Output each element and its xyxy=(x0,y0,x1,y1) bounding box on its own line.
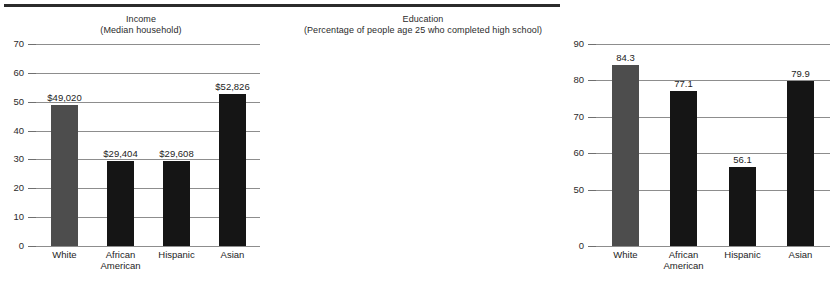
y-axis-label: 70 xyxy=(0,39,24,49)
plot-area-income: 010203040506070$49,020White$29,404Africa… xyxy=(22,44,260,246)
bar[interactable] xyxy=(729,167,756,246)
y-axis-label: 50 xyxy=(0,97,24,107)
y-axis-label: 60 xyxy=(0,68,24,78)
chart-title-line2: (Percentage of people age 25 who complet… xyxy=(282,25,564,36)
y-axis-tick xyxy=(28,44,36,45)
bar-value-label: 84.3 xyxy=(594,52,657,63)
x-axis-label-line: American xyxy=(87,260,154,271)
gridline xyxy=(36,44,260,45)
chart-panel-income: Income (Median household) 01020304050607… xyxy=(0,0,282,288)
chart-title-line1: Income xyxy=(0,14,282,25)
y-axis-label: 0 xyxy=(0,241,24,251)
x-axis-label-line: African xyxy=(669,249,699,260)
bar[interactable] xyxy=(612,65,639,246)
x-axis-label-line: Hispanic xyxy=(724,249,760,260)
y-axis-tick xyxy=(28,188,36,189)
x-axis-label: AfricanAmerican xyxy=(650,249,717,271)
bar-value-label: 79.9 xyxy=(769,68,832,79)
bar-value-label: 56.1 xyxy=(711,154,774,165)
bar-value-label: $29,404 xyxy=(89,148,152,159)
y-axis-tick xyxy=(588,80,596,81)
gridline xyxy=(596,246,830,247)
y-axis-label: 60 xyxy=(560,148,584,158)
x-axis-label-line: Hispanic xyxy=(158,249,194,260)
x-axis-label: Hispanic xyxy=(709,249,776,260)
y-axis-tick xyxy=(588,153,596,154)
plot-area-education: 0506070809084.3White77.1AfricanAmerican5… xyxy=(582,44,830,246)
x-axis-label: Asian xyxy=(767,249,834,260)
y-axis-label: 10 xyxy=(0,212,24,222)
y-axis-label: 80 xyxy=(560,75,584,85)
x-axis-label-line: Asian xyxy=(221,249,245,260)
bar[interactable] xyxy=(163,161,190,246)
y-axis-label: 70 xyxy=(560,112,584,122)
chart-title-education: Education (Percentage of people age 25 w… xyxy=(282,14,564,36)
x-axis-label-line: White xyxy=(52,249,76,260)
y-axis-tick xyxy=(28,217,36,218)
y-axis-label: 50 xyxy=(560,185,584,195)
y-axis-tick xyxy=(588,44,596,45)
y-axis-tick xyxy=(28,159,36,160)
y-axis-tick xyxy=(28,131,36,132)
chart-title-line1: Education xyxy=(282,14,564,25)
bar[interactable] xyxy=(51,105,78,246)
bar[interactable] xyxy=(787,81,814,246)
bar-value-label: 77.1 xyxy=(652,78,715,89)
bar[interactable] xyxy=(219,94,246,246)
bar-value-label: $49,020 xyxy=(33,92,96,103)
y-axis-tick xyxy=(28,246,36,247)
chart-title-income: Income (Median household) xyxy=(0,14,282,36)
bar[interactable] xyxy=(670,91,697,246)
y-axis-label: 30 xyxy=(0,154,24,164)
y-axis-tick xyxy=(28,73,36,74)
x-axis-label-line: African xyxy=(106,249,136,260)
x-axis-label-line: American xyxy=(650,260,717,271)
x-axis-label-line: White xyxy=(613,249,637,260)
bar-value-label: $52,826 xyxy=(201,81,264,92)
y-axis-label: 20 xyxy=(0,183,24,193)
gridline xyxy=(596,44,830,45)
y-axis-tick xyxy=(588,117,596,118)
y-axis-tick xyxy=(588,190,596,191)
y-axis-tick xyxy=(588,246,596,247)
x-axis-label-line: Asian xyxy=(789,249,813,260)
x-axis-label: Asian xyxy=(199,249,266,260)
bar[interactable] xyxy=(107,161,134,246)
bar-value-label: $29,608 xyxy=(145,148,208,159)
y-axis-label: 0 xyxy=(560,241,584,251)
chart-title-line2: (Median household) xyxy=(0,25,282,36)
chart-panel-education: Education (Percentage of people age 25 w… xyxy=(282,0,564,288)
gridline xyxy=(36,246,260,247)
y-axis-label: 90 xyxy=(560,39,584,49)
x-axis-label: White xyxy=(592,249,659,260)
gridline xyxy=(36,73,260,74)
y-axis-label: 40 xyxy=(0,126,24,136)
